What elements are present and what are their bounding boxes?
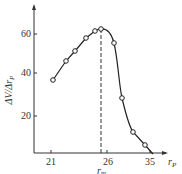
y-tick-label-40: 40 bbox=[21, 67, 31, 78]
data-curve bbox=[53, 29, 153, 154]
y-tick-label-60: 60 bbox=[21, 28, 31, 39]
data-point bbox=[143, 143, 148, 148]
data-point bbox=[84, 36, 89, 41]
x-axis-arrow-icon bbox=[162, 151, 168, 155]
data-point bbox=[93, 29, 98, 34]
data-point bbox=[51, 78, 56, 83]
y-axis-label: ΔV/ΔrP bbox=[3, 75, 16, 106]
data-point bbox=[131, 130, 136, 135]
data-point bbox=[99, 27, 104, 32]
data-markers bbox=[51, 27, 148, 148]
data-point bbox=[112, 41, 117, 46]
x-tick-label-26: 26 bbox=[103, 156, 113, 167]
chart: 60 40 20 21 26 35 rP rm ΔV/ΔrP bbox=[0, 0, 182, 174]
x-axis-label: rP bbox=[168, 156, 177, 169]
y-axis-arrow-icon bbox=[32, 4, 36, 10]
x-tick-label-35: 35 bbox=[145, 156, 155, 167]
data-point bbox=[120, 96, 125, 101]
y-tick-label-20: 20 bbox=[21, 110, 31, 121]
data-point bbox=[73, 49, 78, 54]
data-point bbox=[64, 59, 69, 64]
x-tick-label-21: 21 bbox=[46, 156, 56, 167]
